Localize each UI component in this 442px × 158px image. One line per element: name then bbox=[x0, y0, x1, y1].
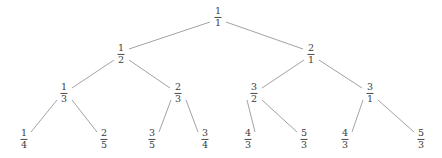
tree-node-fraction: 11 bbox=[214, 6, 221, 28]
fraction-numerator: 4 bbox=[244, 128, 251, 138]
fraction-denominator: 1 bbox=[214, 18, 221, 28]
tree-edge bbox=[378, 100, 414, 132]
tree-edge bbox=[129, 22, 210, 49]
tree-edge bbox=[129, 60, 170, 88]
tree-edge bbox=[31, 100, 57, 132]
fraction-numerator: 3 bbox=[201, 128, 208, 138]
fraction-denominator: 2 bbox=[250, 94, 257, 104]
tree-node-fraction: 23 bbox=[174, 82, 181, 104]
fraction-denominator: 2 bbox=[117, 55, 124, 65]
fraction-numerator: 1 bbox=[214, 6, 221, 16]
tree-edge bbox=[352, 100, 363, 132]
tree-edge bbox=[186, 100, 198, 132]
fraction-tree-figure: 111221132332311425353443534353 bbox=[0, 0, 442, 158]
fraction-denominator: 3 bbox=[60, 94, 67, 104]
fraction-numerator: 1 bbox=[60, 82, 67, 92]
fraction-numerator: 4 bbox=[341, 128, 348, 138]
fraction-numerator: 1 bbox=[20, 128, 27, 138]
tree-node-fraction: 53 bbox=[300, 128, 307, 150]
tree-edge bbox=[72, 100, 97, 132]
tree-node-fraction: 25 bbox=[100, 128, 107, 150]
tree-edge bbox=[72, 60, 114, 88]
tree-node-fraction: 35 bbox=[148, 128, 155, 150]
fraction-denominator: 4 bbox=[20, 140, 27, 150]
fraction-denominator: 1 bbox=[366, 94, 373, 104]
fraction-denominator: 5 bbox=[148, 140, 155, 150]
fraction-numerator: 3 bbox=[148, 128, 155, 138]
fraction-numerator: 5 bbox=[417, 128, 424, 138]
fraction-denominator: 3 bbox=[244, 140, 251, 150]
fraction-denominator: 1 bbox=[307, 55, 314, 65]
fraction-denominator: 3 bbox=[300, 140, 307, 150]
fraction-numerator: 5 bbox=[300, 128, 307, 138]
tree-node-fraction: 21 bbox=[307, 43, 314, 65]
fraction-denominator: 3 bbox=[174, 94, 181, 104]
fraction-numerator: 1 bbox=[117, 43, 124, 53]
tree-node-fraction: 31 bbox=[366, 82, 373, 104]
tree-edge bbox=[319, 60, 362, 88]
fraction-numerator: 2 bbox=[307, 43, 314, 53]
tree-edge bbox=[262, 60, 304, 88]
tree-edge bbox=[159, 100, 171, 132]
tree-node-fraction: 53 bbox=[417, 128, 424, 150]
fraction-numerator: 3 bbox=[250, 82, 257, 92]
tree-node-fraction: 34 bbox=[201, 128, 208, 150]
fraction-numerator: 2 bbox=[100, 128, 107, 138]
tree-node-fraction: 14 bbox=[20, 128, 27, 150]
fraction-denominator: 3 bbox=[341, 140, 348, 150]
tree-node-fraction: 43 bbox=[341, 128, 348, 150]
tree-node-fraction: 13 bbox=[60, 82, 67, 104]
fraction-denominator: 4 bbox=[201, 140, 208, 150]
fraction-numerator: 2 bbox=[174, 82, 181, 92]
tree-node-fraction: 43 bbox=[244, 128, 251, 150]
tree-node-fraction: 12 bbox=[117, 43, 124, 65]
tree-edge bbox=[226, 22, 303, 49]
tree-edge bbox=[262, 100, 297, 132]
fraction-denominator: 5 bbox=[100, 140, 107, 150]
tree-node-fraction: 32 bbox=[250, 82, 257, 104]
fraction-numerator: 3 bbox=[366, 82, 373, 92]
fraction-denominator: 3 bbox=[417, 140, 424, 150]
